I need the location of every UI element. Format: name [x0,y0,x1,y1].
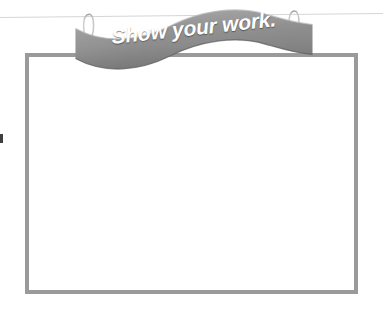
worksheet-page: Show your work. [0,0,383,312]
sign-plaque-sheen [76,10,313,69]
sign-plaque [76,10,313,69]
hanging-sign [0,0,383,312]
